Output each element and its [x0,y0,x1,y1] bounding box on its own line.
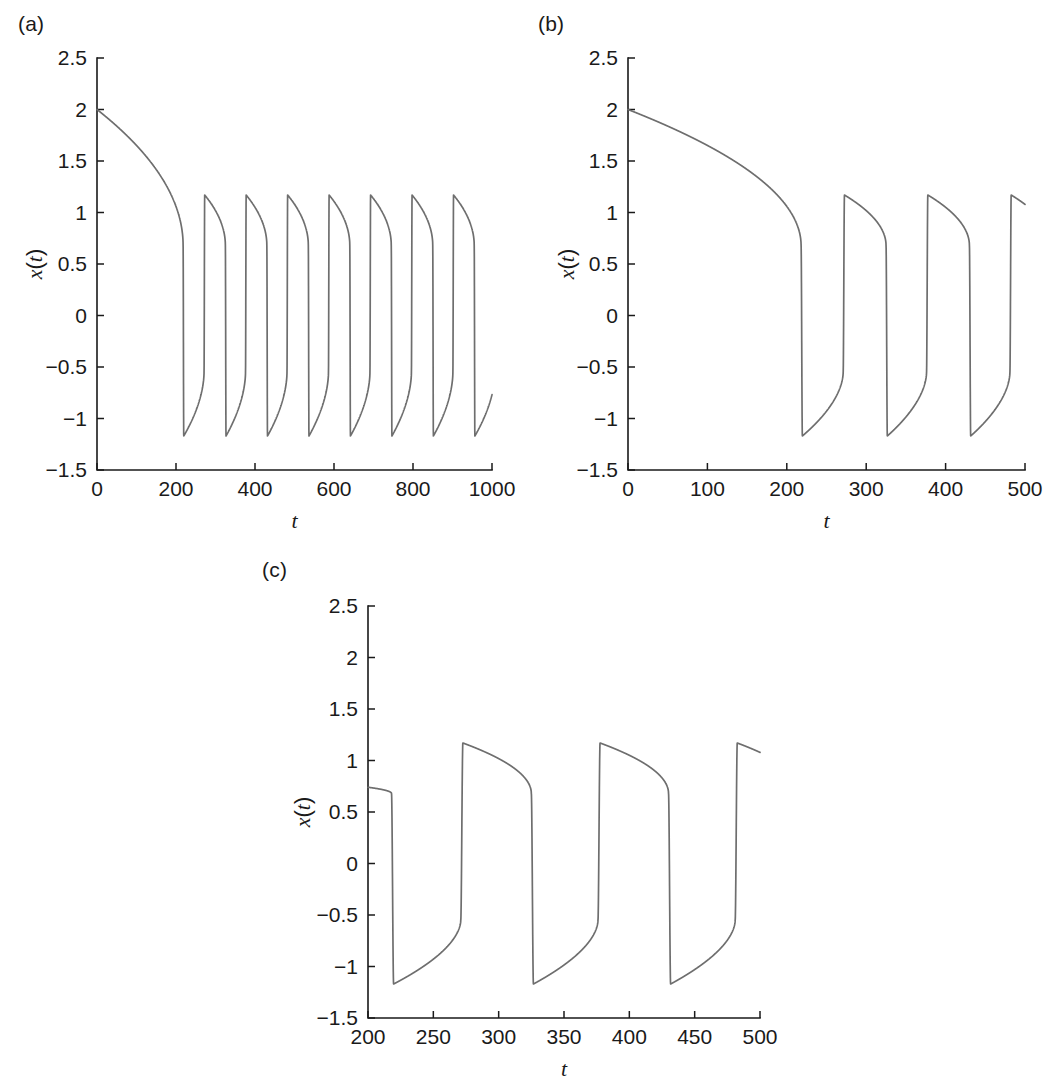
panel-b-plot: −1.5−1−0.500.511.522.50100200300400500tx… [530,0,1061,540]
x-tick-label: 200 [158,477,193,500]
data-curve [628,110,1025,436]
x-tick-label: 1000 [469,477,516,500]
x-axis-title: t [561,1056,568,1081]
svg-text:x(t): x(t) [290,797,315,829]
x-axis-title: t [291,508,298,533]
x-tick-label: 300 [849,477,884,500]
x-tick-label: 600 [316,477,351,500]
x-tick-label: 400 [237,477,272,500]
x-tick-label: 100 [690,477,725,500]
y-tick-label: 0 [346,852,358,875]
data-curve [368,743,760,984]
y-tick-label: 1.5 [329,697,358,720]
y-tick-label: 2 [346,646,358,669]
x-tick-label: 350 [546,1025,581,1048]
x-tick-label: 500 [742,1025,777,1048]
x-tick-label: 300 [481,1025,516,1048]
x-tick-label: 500 [1007,477,1042,500]
y-tick-label: 1.5 [589,149,618,172]
x-tick-label: 800 [395,477,430,500]
y-tick-label: 1.5 [58,149,87,172]
svg-text:x(t): x(t) [22,249,47,281]
y-tick-label: −1 [63,407,87,430]
y-tick-label: −0.5 [577,355,618,378]
panel-c-plot: −1.5−1−0.500.511.522.5200250300350400450… [250,540,810,1088]
y-tick-label: 2 [75,98,87,121]
y-tick-label: −0.5 [46,355,87,378]
y-tick-label: −1.5 [577,458,618,481]
y-axis-title: x(t) [22,249,47,281]
x-tick-label: 450 [677,1025,712,1048]
x-tick-label: 200 [769,477,804,500]
x-tick-label: 200 [350,1025,385,1048]
y-tick-label: −1 [334,955,358,978]
y-tick-label: 2.5 [589,46,618,69]
panel-a: (a) −1.5−1−0.500.511.522.502004006008001… [0,0,530,540]
x-tick-label: 0 [622,477,634,500]
x-tick-label: 400 [928,477,963,500]
y-tick-label: −0.5 [317,903,358,926]
y-tick-label: 0 [75,304,87,327]
y-tick-label: 1 [606,201,618,224]
x-tick-label: 0 [91,477,103,500]
y-tick-label: 1 [75,201,87,224]
y-tick-label: 0.5 [329,800,358,823]
axis-spines [368,606,760,1018]
y-tick-label: 0.5 [58,252,87,275]
x-tick-label: 400 [612,1025,647,1048]
panel-c: (c) −1.5−1−0.500.511.522.520025030035040… [250,540,810,1088]
panel-b: (b) −1.5−1−0.500.511.522.501002003004005… [530,0,1061,540]
y-tick-label: 2.5 [329,594,358,617]
y-tick-label: 0 [606,304,618,327]
x-tick-label: 250 [416,1025,451,1048]
panel-a-plot: −1.5−1−0.500.511.522.502004006008001000t… [0,0,530,540]
y-axis-title: x(t) [554,249,579,281]
y-tick-label: 2.5 [58,46,87,69]
y-tick-label: 1 [346,749,358,772]
y-tick-label: 0.5 [589,252,618,275]
axis-spines [628,58,1025,470]
svg-text:x(t): x(t) [554,249,579,281]
y-tick-label: −1.5 [46,458,87,481]
y-tick-label: −1 [594,407,618,430]
data-curve [97,110,492,436]
y-tick-label: 2 [606,98,618,121]
x-axis-title: t [823,508,830,533]
y-axis-title: x(t) [290,797,315,829]
